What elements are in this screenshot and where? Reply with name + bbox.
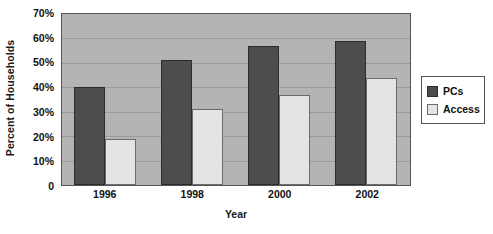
y-axis-tick-label: 0	[48, 180, 54, 192]
bar-group	[241, 14, 318, 185]
plot-area	[61, 13, 411, 186]
x-axis-tick-labels: 1996199820002002	[61, 188, 411, 206]
bar	[192, 109, 223, 185]
x-axis-tick-label: 1998	[154, 188, 231, 200]
bar	[335, 41, 366, 185]
bar	[248, 46, 279, 185]
legend-item-label: PCs	[443, 85, 463, 97]
y-axis-tick-label: 40%	[33, 81, 54, 93]
y-axis-tick-label: 10%	[33, 155, 54, 167]
bar-group	[67, 14, 144, 185]
bar	[161, 60, 192, 185]
x-axis-tick-label: 1996	[66, 188, 143, 200]
legend-item[interactable]: PCs	[427, 82, 480, 100]
bar-group	[328, 14, 405, 185]
y-axis-tick-label: 30%	[33, 106, 54, 118]
x-axis-title: Year	[61, 208, 411, 220]
y-axis-tick-label: 50%	[33, 56, 54, 68]
x-axis-tick-label: 2000	[241, 188, 318, 200]
bar	[366, 78, 397, 185]
legend-swatch-icon	[427, 86, 438, 97]
x-axis-tick-label: 2002	[329, 188, 406, 200]
y-axis-title-text: Percent of Households	[4, 39, 16, 155]
bar-group	[154, 14, 231, 185]
y-axis-tick-labels: 010%20%30%40%50%60%70%	[18, 13, 58, 186]
legend-item[interactable]: Access	[427, 100, 480, 118]
bar	[74, 87, 105, 185]
legend-item-label: Access	[443, 103, 480, 115]
y-axis-tick-label: 60%	[33, 32, 54, 44]
bar	[279, 95, 310, 185]
bars-layer	[62, 14, 410, 185]
y-axis-title: Percent of Households	[0, 0, 20, 195]
y-axis-tick-label: 20%	[33, 131, 54, 143]
y-axis-tick-label: 70%	[33, 7, 54, 19]
chart-legend: PCsAccess	[421, 76, 485, 124]
bar-chart: Percent of Households 010%20%30%40%50%60…	[0, 0, 493, 234]
legend-swatch-icon	[427, 104, 438, 115]
bar	[105, 139, 136, 185]
